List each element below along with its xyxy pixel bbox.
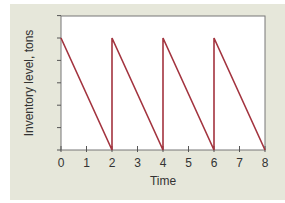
y-axis-ticks	[57, 16, 61, 150]
x-tick-label: 6	[211, 156, 218, 170]
x-tick-label: 7	[236, 156, 243, 170]
x-axis-title: Time	[150, 174, 177, 188]
figure-frame: 012345678 Time Inventory level, tons	[0, 0, 285, 203]
x-tick-label: 8	[262, 156, 269, 170]
inventory-sawtooth-chart: 012345678 Time Inventory level, tons	[0, 0, 285, 203]
x-tick-label: 3	[134, 156, 141, 170]
x-tick-label: 5	[185, 156, 192, 170]
x-tick-label: 0	[58, 156, 65, 170]
x-axis-tick-labels: 012345678	[58, 156, 269, 170]
x-tick-label: 4	[160, 156, 167, 170]
x-tick-label: 1	[83, 156, 90, 170]
x-tick-label: 2	[109, 156, 116, 170]
y-axis-title: Inventory level, tons	[22, 30, 36, 137]
